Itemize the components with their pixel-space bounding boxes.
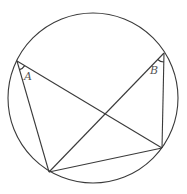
segment-b-q bbox=[162, 53, 164, 148]
label-angle-b: B bbox=[149, 64, 158, 77]
angle-arc-a bbox=[20, 66, 25, 70]
segment-p-q bbox=[49, 148, 162, 172]
inscribed-angle-diagram: A B bbox=[0, 0, 187, 194]
label-angle-a: A bbox=[23, 70, 32, 83]
angle-arc-b bbox=[158, 60, 164, 63]
segment-b-p bbox=[49, 53, 164, 172]
circle bbox=[8, 13, 178, 183]
